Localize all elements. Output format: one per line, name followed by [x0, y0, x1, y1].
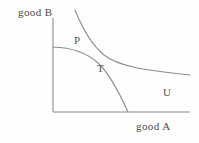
indifference-curve-label: U	[163, 86, 171, 98]
y-axis-label: good B	[18, 6, 53, 18]
indifference-curve	[75, 10, 190, 75]
ppf-curve-label: P	[74, 34, 80, 46]
ppf-curve	[53, 47, 128, 112]
economics-diagram: good B good A P T U	[0, 0, 199, 143]
x-axis-label: good A	[136, 120, 171, 132]
tangency-point-label: T	[97, 62, 104, 74]
